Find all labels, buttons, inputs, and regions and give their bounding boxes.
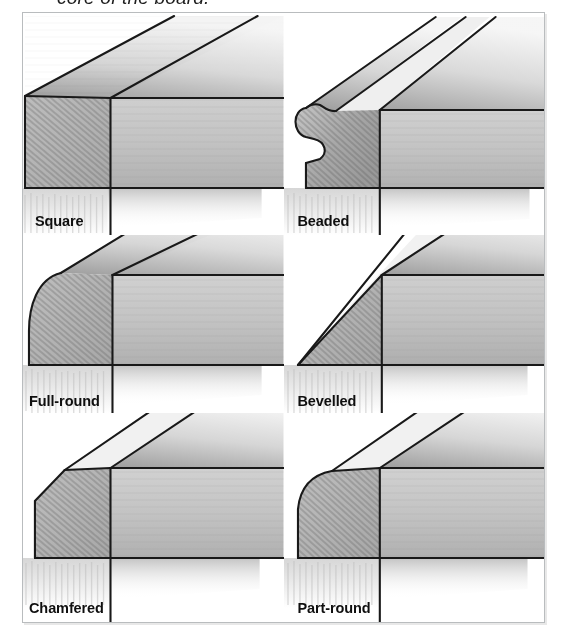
profile-cell-part-round[interactable]: Part-round	[284, 413, 545, 623]
profile-label-square: Square	[35, 213, 84, 229]
profile-label-part-round: Part-round	[298, 600, 371, 616]
profile-cell-bevelled[interactable]: Bevelled	[284, 235, 545, 413]
profile-label-beaded: Beaded	[298, 213, 350, 229]
caption-text: core of the board.	[57, 0, 210, 9]
profile-cell-full-round[interactable]: Full-round	[23, 235, 284, 413]
bevelled-profile-illustration	[284, 235, 545, 413]
profile-label-chamfered: Chamfered	[29, 600, 104, 616]
beaded-profile-illustration	[284, 13, 545, 235]
profile-cell-square[interactable]: Square	[23, 13, 284, 235]
profile-grid: Square	[23, 13, 544, 622]
profile-label-bevelled: Bevelled	[298, 393, 357, 409]
profile-cell-chamfered[interactable]: Chamfered	[23, 413, 284, 623]
square-profile-illustration	[23, 13, 284, 235]
figure-frame: Square	[22, 12, 545, 623]
profile-cell-beaded[interactable]: Beaded	[284, 13, 545, 235]
profile-label-full-round: Full-round	[29, 393, 100, 409]
part-round-profile-illustration	[284, 413, 545, 623]
chamfered-profile-illustration	[23, 413, 284, 623]
full-round-profile-illustration	[23, 235, 284, 413]
